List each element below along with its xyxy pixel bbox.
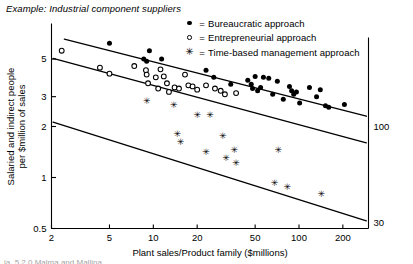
svg-text:per $million of sales: per $million of sales [16,84,27,168]
svg-text:✳: ✳ [222,153,230,163]
svg-text:30: 30 [374,217,385,228]
svg-text:✳: ✳ [274,145,282,155]
svg-text:✳: ✳ [232,158,240,168]
svg-text:✳: ✳ [283,182,291,192]
svg-text:✳: ✳ [170,100,178,110]
svg-text:5: 5 [41,53,46,64]
svg-text:50: 50 [250,232,261,243]
svg-text:100: 100 [374,121,390,132]
svg-text:✳: ✳ [231,145,239,155]
chart-svg: ✳✳✳✳✳✳✳✳✳✳✳✳✳✳✳ 2510205010020053210.5100… [0,0,413,264]
svg-text:✳: ✳ [193,110,201,120]
svg-text:✳: ✳ [271,178,279,188]
svg-text:100: 100 [291,232,307,243]
svg-text:✳: ✳ [219,131,227,141]
svg-text:✳: ✳ [317,189,325,199]
data-points: ✳✳✳✳✳✳✳✳✳✳✳✳✳✳✳ [59,41,347,199]
svg-text:2: 2 [49,232,54,243]
svg-text:Salaried and indirect people: Salaried and indirect people [5,68,16,186]
svg-text:Plant sales/Product family ($m: Plant sales/Product family ($millions) [132,247,287,258]
svg-text:10: 10 [148,232,159,243]
svg-text:2: 2 [41,121,46,132]
svg-text:20: 20 [192,232,203,243]
svg-text:✳: ✳ [206,110,214,120]
scatter-plot: ✳✳✳✳✳✳✳✳✳✳✳✳✳✳✳ 2510205010020053210.5100… [0,0,413,264]
svg-text:5: 5 [107,232,112,243]
svg-text:1: 1 [41,172,46,183]
svg-text:✳: ✳ [202,147,210,157]
svg-text:✳: ✳ [177,137,185,147]
svg-text:✳: ✳ [143,96,151,106]
svg-text:0.5: 0.5 [33,223,46,234]
svg-text:3: 3 [41,91,46,102]
cropped-caption: ja. 5.2.0 Malma and Mallina [4,259,174,264]
svg-text:200: 200 [335,232,351,243]
tick-labels: 2510205010020053210.510030 [33,53,389,242]
